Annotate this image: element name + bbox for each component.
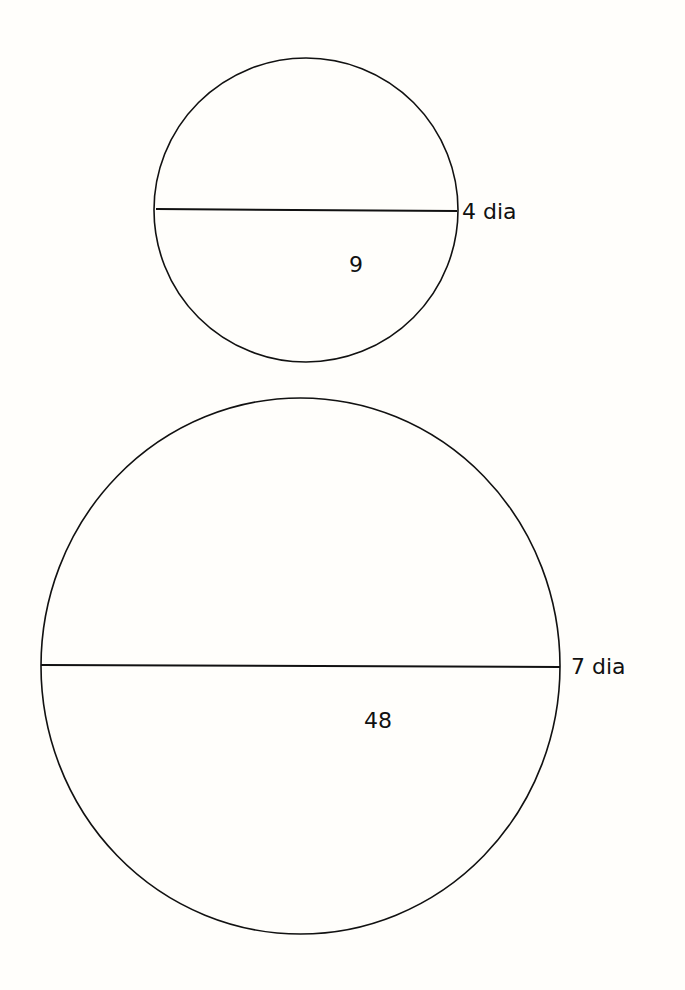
diagram-canvas xyxy=(0,0,685,990)
large-area-label: 48 xyxy=(364,710,392,732)
large-diameter-label: 7 dia xyxy=(571,656,626,678)
small-area-label: 9 xyxy=(349,254,363,276)
small-diameter-label: 4 dia xyxy=(462,201,517,223)
large-circle-diameter xyxy=(41,665,560,667)
small-circle-diameter xyxy=(156,209,457,211)
